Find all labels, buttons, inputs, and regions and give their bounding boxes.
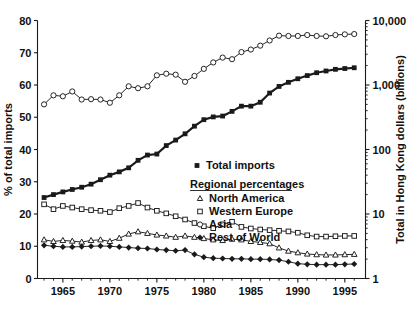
y-axis-tick-label: 20 — [19, 208, 31, 220]
data-point — [154, 73, 159, 78]
data-point — [88, 243, 94, 249]
legend-label-western-europe: Western Europe — [209, 205, 293, 217]
data-point — [351, 251, 357, 256]
data-point — [164, 211, 169, 216]
data-point — [79, 207, 84, 212]
data-point — [201, 66, 206, 71]
data-point — [342, 261, 348, 267]
x-axis-tick-label: 1990 — [286, 285, 310, 297]
data-point — [89, 208, 94, 213]
data-point — [60, 94, 65, 99]
data-point — [41, 242, 47, 248]
data-point — [135, 245, 141, 251]
data-point — [314, 70, 319, 75]
data-point — [136, 201, 141, 206]
data-point — [229, 57, 234, 62]
y-axis-tick-label: 0 — [25, 273, 31, 285]
data-point — [164, 71, 169, 76]
y2-axis-tick-label: 100 — [373, 144, 391, 156]
data-point — [277, 84, 282, 89]
data-point — [314, 234, 319, 239]
y2-axis-title: Total in Hong Kong dollars (billions) — [394, 55, 406, 244]
data-point — [98, 97, 103, 102]
data-point — [305, 73, 310, 78]
data-point — [352, 234, 357, 239]
data-point — [117, 93, 122, 98]
data-point — [314, 33, 319, 38]
series-western-europe — [42, 201, 357, 239]
data-point — [343, 234, 348, 239]
y-axis-tick-label: 50 — [19, 111, 31, 123]
data-point — [201, 254, 207, 260]
data-point — [230, 109, 235, 114]
data-point — [305, 233, 310, 238]
data-point — [220, 114, 225, 119]
y2-axis-tick-label: 1 — [373, 273, 379, 285]
data-point — [324, 69, 329, 74]
data-point — [173, 214, 178, 219]
legend-label-north-america: North America — [209, 192, 285, 204]
y-axis-tick-label: 40 — [19, 144, 31, 156]
legend-marker — [197, 196, 202, 201]
data-point — [191, 251, 197, 257]
data-point — [98, 208, 103, 213]
data-point — [239, 50, 244, 55]
data-point — [41, 237, 47, 242]
data-point — [276, 33, 281, 38]
data-point — [182, 233, 188, 238]
data-point — [79, 97, 84, 102]
data-point — [108, 210, 113, 215]
data-point — [145, 153, 150, 158]
data-point — [192, 73, 197, 78]
data-point — [276, 257, 282, 263]
data-point — [238, 256, 244, 262]
y-axis-tick-label: 10 — [19, 240, 31, 252]
data-point — [182, 247, 188, 253]
data-point — [286, 229, 291, 234]
data-point — [305, 32, 310, 37]
data-point — [267, 91, 272, 96]
data-point — [183, 217, 188, 222]
legend-label-total-imports: Total imports — [206, 159, 275, 171]
data-point — [286, 80, 291, 85]
data-point — [248, 256, 254, 262]
line-chart-svg: 01020304050607080% of total imports11010… — [0, 0, 413, 311]
legend-label-rest-of-world: Rest of World — [209, 231, 280, 243]
y-axis-tick-label: 60 — [19, 79, 31, 91]
y-axis-tick-label: 70 — [19, 47, 31, 59]
legend-marker — [197, 222, 202, 227]
data-point — [183, 131, 188, 136]
data-point — [51, 207, 56, 212]
data-point — [107, 100, 112, 105]
data-point — [239, 104, 244, 109]
data-point — [332, 262, 338, 268]
data-point — [351, 261, 357, 267]
data-point — [89, 182, 94, 187]
data-point — [314, 262, 320, 268]
data-point — [61, 204, 66, 209]
y2-axis-tick-label: 10,000 — [373, 15, 407, 27]
data-point — [239, 225, 244, 230]
x-axis-tick-label: 1980 — [192, 285, 216, 297]
data-point — [116, 244, 122, 250]
data-point — [333, 234, 338, 239]
data-point — [70, 89, 75, 94]
data-point — [295, 261, 301, 267]
data-point — [323, 262, 329, 268]
series-line — [44, 34, 354, 104]
data-point — [136, 158, 141, 163]
data-point — [201, 117, 206, 122]
data-point — [324, 234, 329, 239]
data-point — [296, 230, 301, 235]
x-axis-tick-label: 1975 — [145, 285, 169, 297]
data-point — [342, 32, 347, 37]
data-point — [323, 34, 328, 39]
data-point — [342, 66, 347, 71]
data-point — [220, 55, 225, 60]
data-point — [333, 67, 338, 72]
data-point — [173, 248, 179, 254]
data-point — [98, 177, 103, 182]
data-point — [41, 102, 46, 107]
data-point — [182, 79, 187, 84]
data-point — [70, 187, 75, 192]
